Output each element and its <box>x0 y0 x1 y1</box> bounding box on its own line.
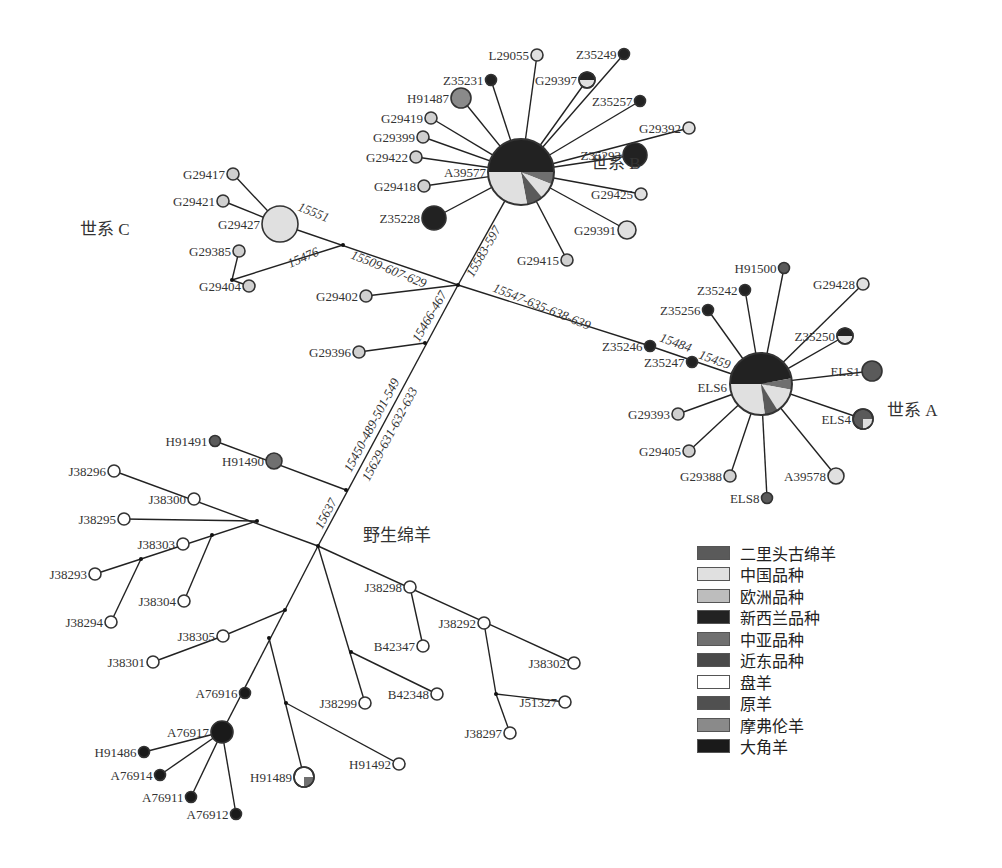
lineage-label: 世系 C <box>80 220 130 239</box>
hub-label: ELS6 <box>697 380 727 395</box>
haplotype-label: J38298 <box>364 580 402 595</box>
haplotype-node: ELS8 <box>730 491 773 506</box>
legend-label: 近东品种 <box>740 648 804 672</box>
haplotype-label: J38294 <box>65 615 103 630</box>
haplotype-label: H91489 <box>250 770 292 785</box>
legend: 二里头古绵羊中国品种欧洲品种新西兰品种中亚品种近东品种盘羊原羊摩弗伦羊大角羊 <box>697 542 836 757</box>
network-edge <box>318 546 574 663</box>
lineage-labels: 世系 B世系 C世系 A野生绵羊 <box>80 154 938 545</box>
haplotype-label: J51327 <box>519 695 557 710</box>
network-edge <box>286 703 399 764</box>
haplotype-label: Z35249 <box>576 47 616 62</box>
haplotype-label: B42347 <box>374 639 416 654</box>
haplotype-node: G29421 <box>173 194 229 209</box>
haplotype-label: Z35256 <box>660 303 701 318</box>
network-edge <box>95 559 141 574</box>
haplotype-node: Z35246 <box>602 339 655 354</box>
median-vector-dot <box>255 519 259 523</box>
haplotype-node: G29425 <box>591 187 647 202</box>
haplotype-label: J38304 <box>138 594 176 609</box>
haplotype-label: G29427 <box>218 217 260 232</box>
haplotype-label: G29402 <box>316 289 358 304</box>
haplotype-node: G29402 <box>316 289 372 304</box>
haplotype-label: B42348 <box>388 687 429 702</box>
haplotype-label: H91500 <box>735 261 777 276</box>
legend-swatch <box>697 546 730 560</box>
legend-swatch <box>697 675 730 689</box>
haplotype-label: Z35257 <box>592 94 633 109</box>
haplotype-label: G29399 <box>373 130 415 145</box>
haplotype-label: G29396 <box>309 345 351 360</box>
haplotype-label: L29055 <box>489 48 529 63</box>
median-vector-dot <box>283 608 287 612</box>
haplotype-node: G29415 <box>517 253 573 268</box>
haplotype-node: A76916 <box>196 686 251 701</box>
haplotype-label: H91491 <box>166 434 208 449</box>
median-vector-dot <box>494 692 498 696</box>
haplotype-node: G29404 <box>199 279 255 294</box>
legend-item: 新西兰品种 <box>697 607 836 629</box>
network-edge <box>359 343 425 352</box>
legend-label: 摩弗伦羊 <box>740 713 804 737</box>
legend-swatch <box>697 610 730 624</box>
median-vector-dot <box>341 243 345 247</box>
haplotype-label: ELS4 <box>821 412 851 427</box>
haplotype-label: G29428 <box>813 277 855 292</box>
haplotype-node: G29418 <box>374 179 430 194</box>
haplotype-node: G29391 <box>574 221 636 239</box>
haplotype-node: J38303 <box>137 537 189 552</box>
haplotype-label: J38302 <box>528 656 566 671</box>
haplotype-label: Z35247 <box>644 355 685 370</box>
haplotype-label: H91492 <box>349 757 391 772</box>
haplotype-label: J38305 <box>177 629 215 644</box>
haplotype-label: G29422 <box>366 150 408 165</box>
haplotype-node: Z35256 <box>660 303 713 318</box>
haplotype-label: J38301 <box>107 655 145 670</box>
haplotype-node: B42347 <box>374 639 429 654</box>
haplotype-node: Z35247 <box>644 355 697 370</box>
legend-label: 欧洲品种 <box>740 584 804 608</box>
haplotype-node: G29396 <box>309 345 365 360</box>
haplotype-label: A76914 <box>111 768 153 783</box>
legend-label: 盘羊 <box>740 670 772 694</box>
haplotype-node: Z35250 <box>795 328 853 344</box>
legend-label: 大角羊 <box>740 734 788 758</box>
haplotype-label: J38292 <box>438 616 476 631</box>
lineage-label: 野生绵羊 <box>363 526 431 545</box>
haplotype-label: A76917 <box>167 725 209 740</box>
haplotype-label: A76916 <box>196 686 238 701</box>
haplotype-node: H91492 <box>349 757 405 772</box>
haplotype-label: Z35250 <box>795 329 835 344</box>
mutation-label: 15583-597 <box>463 223 504 280</box>
legend-item: 大角羊 <box>697 736 836 758</box>
legend-swatch <box>697 567 730 581</box>
haplotype-node: ELS4 <box>821 409 873 429</box>
haplotype-node: H91490 <box>222 453 282 469</box>
haplotype-label: J38299 <box>319 696 357 711</box>
haplotype-label: G29415 <box>517 253 559 268</box>
pie-slice <box>488 172 527 205</box>
haplotype-label: G29385 <box>189 244 231 259</box>
haplotype-node: G29392 <box>639 121 695 136</box>
haplotype-node: Z35257 <box>592 94 645 109</box>
haplotype-node: J38300 <box>148 492 200 507</box>
legend-label: 中亚品种 <box>740 627 804 651</box>
haplotype-node: J38299 <box>319 696 371 711</box>
haplotype-label: G29405 <box>639 444 681 459</box>
haplotype-label: G29421 <box>173 194 215 209</box>
legend-swatch <box>697 589 730 603</box>
haplotype-node: A76911 <box>142 790 196 805</box>
network-edge <box>410 587 423 646</box>
haplotype-node: G29393 <box>628 407 684 422</box>
haplotype-node: ELS1 <box>830 361 882 381</box>
network-edge <box>484 623 496 694</box>
haplotype-label: G29393 <box>628 407 670 422</box>
haplotype-node: G29399 <box>373 130 429 145</box>
haplotype-label: J38296 <box>68 464 106 479</box>
haplotype-label: Z35228 <box>380 211 420 226</box>
haplotype-node: B42348 <box>388 687 443 702</box>
mutation-label: 15547-635-638-639 <box>491 280 593 333</box>
haplotype-label: H91486 <box>95 745 137 760</box>
legend-item: 中国品种 <box>697 564 836 586</box>
legend-label: 中国品种 <box>740 562 804 586</box>
